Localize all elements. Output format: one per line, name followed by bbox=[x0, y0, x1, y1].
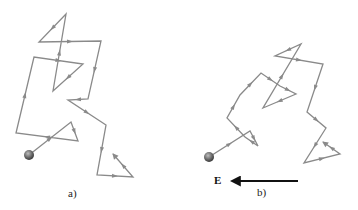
panel-label-b: b) bbox=[257, 186, 266, 198]
particle-ball-a bbox=[24, 150, 34, 160]
path-end-arrow-icon bbox=[320, 139, 328, 147]
direction-arrow-icon bbox=[284, 47, 291, 53]
direction-arrow-icon bbox=[312, 85, 318, 92]
direction-arrow-icon bbox=[230, 103, 236, 110]
direction-arrow-icon bbox=[279, 72, 286, 79]
direction-arrow-icon bbox=[284, 87, 291, 93]
panel-label-a: a) bbox=[68, 187, 77, 199]
diagram-canvas bbox=[0, 0, 358, 210]
direction-arrow-icon bbox=[75, 97, 81, 101]
field-label-e: E bbox=[214, 174, 221, 186]
random-walk-path-b bbox=[209, 44, 340, 163]
direction-arrow-icon bbox=[276, 98, 283, 104]
particle-ball-b bbox=[204, 152, 214, 162]
direction-arrow-icon bbox=[72, 128, 78, 135]
direction-arrow-icon bbox=[67, 39, 73, 43]
direction-arrow-icon bbox=[112, 174, 118, 178]
